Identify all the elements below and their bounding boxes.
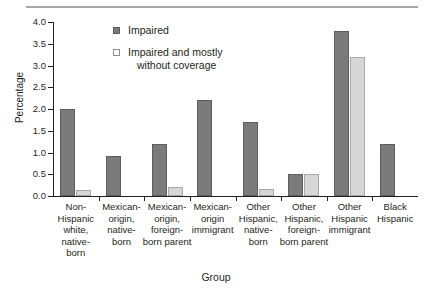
y-axis-tick-label: 1.0 — [2, 148, 46, 158]
bar-impaired — [243, 122, 258, 196]
bar-impaired-without-coverage — [304, 174, 319, 196]
x-axis-category-label-line: born — [49, 247, 103, 259]
x-axis-category-label-line: born parent — [277, 236, 331, 248]
bar-impaired — [60, 109, 75, 196]
x-axis-category-label-line: Black — [368, 201, 422, 213]
bar-impaired — [380, 144, 395, 196]
y-axis-tick-label: 3.5 — [2, 39, 46, 49]
bar-impaired — [106, 156, 121, 196]
x-axis-category-label-line: immigrant — [323, 224, 377, 236]
legend-item-impaired: Impaired — [113, 24, 328, 37]
y-axis-tick-label: 2.5 — [2, 82, 46, 92]
y-axis-tick-label: 3.0 — [2, 61, 46, 71]
x-axis-category-label-line: Hispanic — [368, 213, 422, 225]
legend-swatch-impaired-no-coverage — [113, 49, 120, 56]
y-axis-tick-label: 4.0 — [2, 17, 46, 27]
bar-impaired — [197, 100, 212, 196]
bar-impaired — [152, 144, 167, 196]
bar-impaired — [288, 174, 303, 196]
bar-impaired-without-coverage — [168, 187, 183, 196]
legend-label-line2: without coverage — [137, 59, 328, 72]
y-axis-tick-label: 1.5 — [2, 126, 46, 136]
legend: Impaired Impaired and mostlywithout cove… — [113, 24, 328, 81]
legend-label-line1: Impaired and mostly — [128, 46, 223, 58]
x-axis-category-label-line: born parent — [140, 236, 194, 248]
x-axis-title: Group — [0, 271, 432, 283]
legend-label-impaired-no-coverage: Impaired and mostlywithout coverage — [128, 46, 328, 72]
legend-swatch-impaired — [113, 27, 120, 34]
bar-impaired-without-coverage — [76, 190, 91, 196]
top-rule-divider — [26, 6, 418, 8]
bar-impaired — [334, 31, 349, 196]
y-axis-tick-label: 0.5 — [2, 169, 46, 179]
legend-item-impaired-no-coverage: Impaired and mostlywithout coverage — [113, 46, 328, 72]
legend-label-impaired: Impaired — [128, 24, 328, 37]
bar-impaired-without-coverage — [350, 57, 365, 196]
y-axis-tick-label: 2.0 — [2, 104, 46, 114]
x-axis-category-label: BlackHispanic — [368, 201, 422, 224]
bar-impaired-without-coverage — [259, 189, 274, 196]
figure-bar-chart: Percentage 0.00.51.01.52.02.53.03.54.0 N… — [0, 0, 432, 298]
y-axis-tick-label: 0.0 — [2, 191, 46, 201]
